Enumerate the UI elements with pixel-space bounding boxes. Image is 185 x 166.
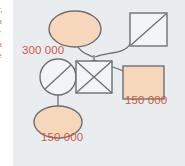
node-child-1-circle (40, 59, 76, 95)
illustration-panel: 300 000 150 000 150 000 (13, 0, 185, 166)
label-child-3-amount: 150 000 (125, 94, 167, 106)
pedigree-diagram-svg (13, 0, 185, 166)
node-mother-square (130, 13, 167, 46)
margin-clipped-text: r, a r a e (0, 4, 13, 62)
node-father-ellipse (49, 11, 101, 47)
link-mother-to-union (95, 44, 130, 57)
label-father-amount: 300 000 (22, 44, 64, 56)
pedigree-figure: r, a r a e (0, 0, 185, 166)
page-margin-strip: r, a r a e (0, 0, 13, 166)
label-grandchild-amount: 150 000 (41, 131, 83, 143)
node-child-2-square (76, 61, 112, 93)
